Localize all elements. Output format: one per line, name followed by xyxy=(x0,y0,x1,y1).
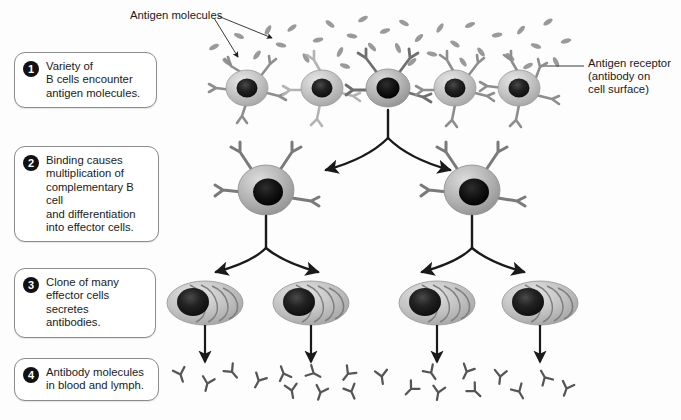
step-text: Clone of many effector cells secretes an… xyxy=(46,276,146,330)
antigen-molecule xyxy=(379,27,391,35)
clone-cluster xyxy=(273,281,349,362)
step-callout-1: 1 Variety of B cells encounter antigen m… xyxy=(14,52,157,108)
antibody-molecule xyxy=(511,384,528,402)
antigen-molecule xyxy=(491,32,502,38)
antigen-molecule xyxy=(435,22,445,34)
step-text: Variety of B cells encounter antigen mol… xyxy=(46,60,140,100)
antigen-molecule xyxy=(324,19,335,29)
antigen-molecule xyxy=(335,46,344,58)
antigen-molecule xyxy=(286,23,297,33)
antigen-molecule xyxy=(252,49,262,60)
b-cell-selected xyxy=(346,49,431,107)
antibody-molecule xyxy=(224,363,242,381)
step-callout-4: 4 Antibody molecules in blood and lymph. xyxy=(14,358,159,401)
branch-arrows-stage1-to-2 xyxy=(326,110,450,170)
clone-cluster xyxy=(399,281,475,362)
antigen-molecule-field xyxy=(208,14,572,70)
step-number-badge: 2 xyxy=(23,155,39,171)
antigen-molecule xyxy=(516,24,527,35)
antibody-field xyxy=(173,363,574,401)
antibody-molecule xyxy=(536,368,553,386)
antigen-molecule xyxy=(275,41,287,48)
antigen-molecule xyxy=(522,62,534,71)
antigen-molecules-label: Antigen molecules xyxy=(130,9,222,22)
antibody-molecule xyxy=(458,364,475,381)
effector-parent-cell xyxy=(215,142,319,215)
antigen-molecule xyxy=(312,37,324,44)
clone-cluster xyxy=(502,281,578,362)
antibody-molecule xyxy=(250,373,267,391)
step-text: Antibody molecules in blood and lymph. xyxy=(46,366,144,393)
antibody-molecule xyxy=(312,385,328,402)
effector-parent-cell xyxy=(421,142,525,215)
antibody-molecule xyxy=(275,364,291,381)
antigen-molecule xyxy=(398,19,410,28)
antigen-molecule xyxy=(542,17,554,27)
antigen-molecule xyxy=(394,42,403,54)
antigen-molecule xyxy=(458,56,468,67)
b-cell xyxy=(480,51,559,127)
antigen-molecule xyxy=(233,32,245,40)
b-cell xyxy=(283,51,360,126)
antigen-molecule xyxy=(426,51,438,58)
antibody-molecule xyxy=(423,364,440,382)
antibody-molecule xyxy=(375,370,389,385)
clone-cluster xyxy=(167,281,243,362)
antibody-molecule xyxy=(558,381,574,398)
diagram-canvas: 1 Variety of B cells encounter antigen m… xyxy=(0,0,681,420)
antibody-molecule xyxy=(343,384,359,401)
step-number-badge: 3 xyxy=(23,277,39,293)
antibody-molecule xyxy=(431,386,445,401)
antigen-molecule xyxy=(530,42,542,50)
antigen-molecule xyxy=(464,21,476,29)
antibody-molecule xyxy=(285,384,299,399)
branch-arrows-stage2-to-3 xyxy=(216,216,524,272)
antigen-molecule xyxy=(339,62,351,70)
antibody-molecule xyxy=(200,376,215,392)
antibody-molecule xyxy=(339,365,357,383)
antibody-molecule xyxy=(402,380,420,398)
antigen-molecule xyxy=(560,37,572,44)
antigen-molecule xyxy=(208,42,220,51)
step-number-badge: 4 xyxy=(23,367,39,383)
step-callout-2: 2 Binding causes multiplication of compl… xyxy=(14,146,159,242)
antigen-molecule xyxy=(263,24,272,36)
b-cell xyxy=(209,56,286,123)
antigen-molecule xyxy=(449,39,461,49)
antigen-molecule xyxy=(357,14,369,23)
step-callout-3: 3 Clone of many effector cells secretes … xyxy=(14,268,156,338)
antigen-molecule xyxy=(414,33,425,44)
antibody-molecule xyxy=(306,365,324,382)
step-number-badge: 1 xyxy=(23,61,39,77)
step-text: Binding causes multiplication of complem… xyxy=(46,154,149,234)
antigen-receptor-label: Antigen receptor (antibody on cell surfa… xyxy=(588,57,671,97)
antigen-molecule xyxy=(367,42,378,53)
antibody-molecule xyxy=(466,382,484,400)
antigen-molecule xyxy=(346,33,357,39)
antibody-molecule xyxy=(493,370,506,385)
antibody-molecule xyxy=(173,367,189,384)
